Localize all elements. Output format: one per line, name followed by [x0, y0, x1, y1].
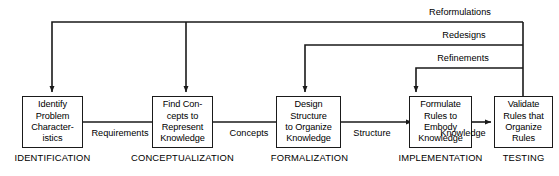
phase-label-formalization: FORMALIZATION [254, 152, 365, 163]
stage-box-testing-text: Validate Rules that Organize Rules [502, 99, 544, 145]
flow-label-concepts: Concepts [220, 128, 278, 139]
stage-box-formalization-text: Design Structure to Organize Knowledge [284, 99, 332, 145]
stage-box-identification[interactable]: Identify Problem Character- istics [22, 96, 83, 148]
stage-box-formalization[interactable]: Design Structure to Organize Knowledge [276, 96, 341, 148]
phase-label-implementation: IMPLEMENTATION [378, 152, 503, 163]
feedback-label-redesigns: Redesigns [426, 30, 502, 41]
phase-label-testing: TESTING [494, 152, 553, 163]
feedback-label-reformulations: Reformulations [412, 7, 508, 18]
feedback-label-refinements: Refinements [419, 53, 507, 64]
phase-label-identification: IDENTIFICATION [2, 152, 103, 163]
stage-box-conceptualization-text: Find Con- cepts to Represent Knowledge [159, 99, 206, 145]
knowledge-engineering-flow-diagram: Identify Problem Character- istics Find … [0, 0, 559, 176]
stage-box-identification-text: Identify Problem Character- istics [30, 99, 74, 145]
flow-label-knowledge: Knowledge [432, 128, 494, 139]
feedback-arrow-refinements [416, 68, 523, 92]
stage-box-conceptualization[interactable]: Find Con- cepts to Represent Knowledge [152, 96, 213, 148]
flow-label-structure: Structure [344, 128, 400, 139]
stage-box-implementation[interactable]: Formulate Rules to Embody Knowledge [409, 96, 472, 148]
diagram-connector-layer [0, 0, 559, 176]
flow-label-requirements: Requirements [84, 128, 156, 139]
stage-box-testing[interactable]: Validate Rules that Organize Rules [494, 96, 553, 148]
phase-label-conceptualization: CONCEPTUALIZATION [112, 152, 253, 163]
